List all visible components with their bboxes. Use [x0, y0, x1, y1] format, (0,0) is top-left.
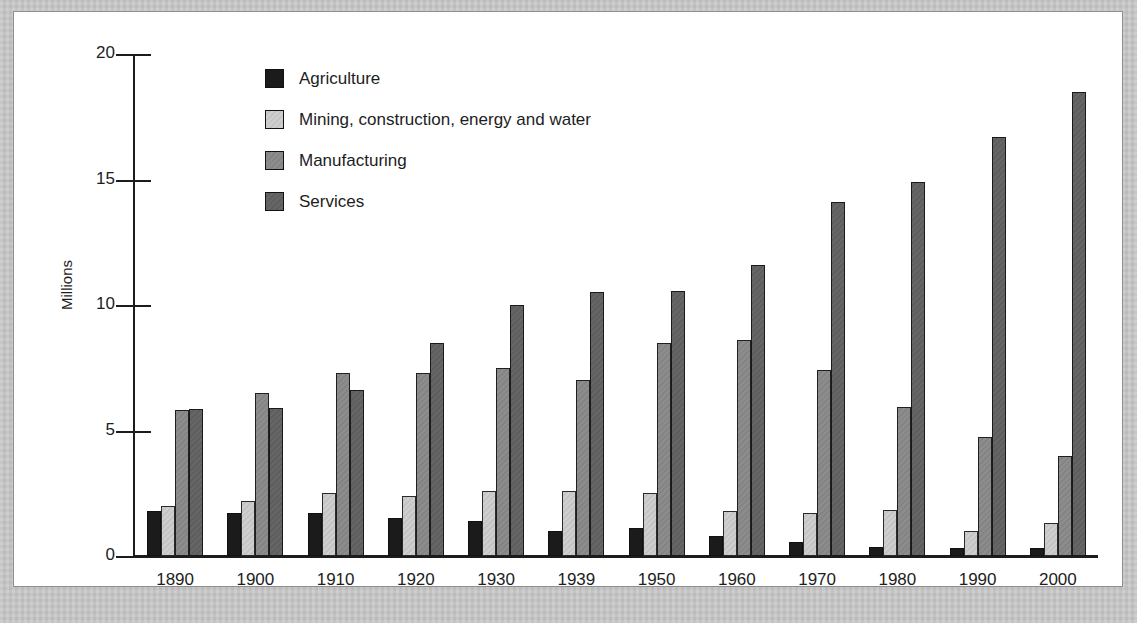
chart-legend: AgricultureMining, construction, energy …	[265, 58, 591, 222]
bar[interactable]	[1058, 456, 1072, 556]
bar[interactable]	[562, 491, 576, 556]
bar[interactable]	[548, 531, 562, 556]
bar-group: 1980	[857, 54, 937, 556]
bar[interactable]	[175, 410, 189, 556]
bar[interactable]	[269, 408, 283, 556]
bar[interactable]	[643, 493, 657, 556]
legend-label: Mining, construction, energy and water	[299, 110, 591, 130]
bar[interactable]	[629, 528, 643, 556]
legend-item[interactable]: Mining, construction, energy and water	[265, 99, 591, 140]
bar[interactable]	[709, 536, 723, 556]
bar[interactable]	[1072, 92, 1086, 556]
bar[interactable]	[468, 521, 482, 556]
y-tick-label: 10	[71, 294, 115, 314]
bar[interactable]	[350, 390, 364, 556]
x-tick-label: 1970	[777, 570, 857, 590]
bar[interactable]	[416, 373, 430, 556]
bar[interactable]	[992, 137, 1006, 556]
x-tick-label: 1950	[617, 570, 697, 590]
y-tick-label: 0	[71, 545, 115, 565]
y-tick-label: 20	[71, 43, 115, 63]
bar[interactable]	[241, 501, 255, 556]
bar[interactable]	[950, 548, 964, 556]
x-tick-label: 1990	[938, 570, 1018, 590]
bar[interactable]	[911, 182, 925, 556]
bar[interactable]	[789, 542, 803, 556]
bar[interactable]	[817, 370, 831, 556]
bar-group: 1960	[697, 54, 777, 556]
x-tick-label: 1980	[857, 570, 937, 590]
page-background: Millions 05101520 1890190019101920193019…	[0, 0, 1137, 623]
bar[interactable]	[496, 368, 510, 556]
legend-swatch-icon	[265, 151, 284, 170]
bar[interactable]	[255, 393, 269, 556]
bar[interactable]	[671, 291, 685, 556]
bar[interactable]	[227, 513, 241, 556]
x-tick-label: 1960	[697, 570, 777, 590]
bar[interactable]	[723, 511, 737, 556]
bar[interactable]	[590, 292, 604, 556]
legend-item[interactable]: Services	[265, 181, 591, 222]
bar[interactable]	[869, 547, 883, 556]
legend-swatch-icon	[265, 110, 284, 129]
bar[interactable]	[322, 493, 336, 556]
x-tick-label: 1930	[456, 570, 536, 590]
x-tick-label: 1939	[536, 570, 616, 590]
bar[interactable]	[1030, 548, 1044, 556]
bar[interactable]	[831, 202, 845, 556]
legend-label: Services	[299, 192, 364, 212]
bar[interactable]	[388, 518, 402, 556]
legend-item[interactable]: Manufacturing	[265, 140, 591, 181]
y-tick-label: 5	[71, 420, 115, 440]
bar[interactable]	[964, 531, 978, 556]
bar[interactable]	[751, 265, 765, 556]
legend-item[interactable]: Agriculture	[265, 58, 591, 99]
bar[interactable]	[576, 380, 590, 556]
bar[interactable]	[402, 496, 416, 556]
legend-swatch-icon	[265, 192, 284, 211]
bar[interactable]	[883, 510, 897, 556]
bar[interactable]	[1044, 523, 1058, 556]
chart-figure: Millions 05101520 1890190019101920193019…	[13, 11, 1123, 587]
bar-group: 2000	[1018, 54, 1098, 556]
bar[interactable]	[161, 506, 175, 556]
bar[interactable]	[482, 491, 496, 556]
bar[interactable]	[978, 437, 992, 556]
bar[interactable]	[657, 343, 671, 556]
bar-group: 1970	[777, 54, 857, 556]
x-tick-label: 1890	[135, 570, 215, 590]
bar[interactable]	[189, 409, 203, 556]
y-tick-mark	[116, 556, 151, 558]
x-tick-label: 1900	[215, 570, 295, 590]
legend-swatch-icon	[265, 69, 284, 88]
bar[interactable]	[147, 511, 161, 556]
bar[interactable]	[510, 305, 524, 556]
bar[interactable]	[737, 340, 751, 556]
legend-label: Agriculture	[299, 69, 380, 89]
bar[interactable]	[803, 513, 817, 556]
legend-label: Manufacturing	[299, 151, 407, 171]
y-tick-label: 15	[71, 169, 115, 189]
bar-group: 1890	[135, 54, 215, 556]
bar[interactable]	[308, 513, 322, 556]
x-tick-label: 1910	[296, 570, 376, 590]
bar[interactable]	[430, 343, 444, 556]
bar-group: 1990	[938, 54, 1018, 556]
bar[interactable]	[336, 373, 350, 556]
x-tick-label: 1920	[376, 570, 456, 590]
bar-group: 1950	[617, 54, 697, 556]
bar[interactable]	[897, 407, 911, 556]
x-tick-label: 2000	[1018, 570, 1098, 590]
